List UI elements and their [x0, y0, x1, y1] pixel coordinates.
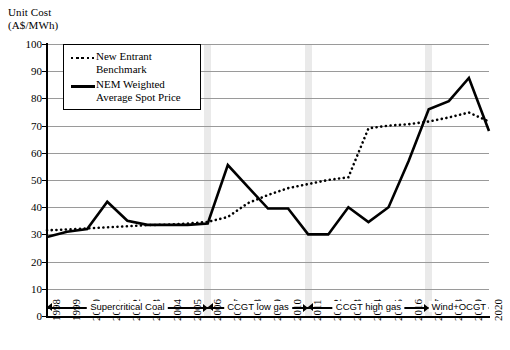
y-axis-tick-label: 80 [8, 93, 42, 104]
y-axis-title-line1: Unit Cost [8, 6, 51, 18]
y-axis-tick-mark [42, 44, 47, 45]
y-axis-tick-label: 10 [8, 283, 42, 294]
y-axis-tick-mark [42, 234, 47, 235]
y-axis-tick-label: 40 [8, 202, 42, 213]
period-annotation: Supercritical Coal [47, 302, 208, 314]
period-annotation: CCGT high gas [308, 302, 429, 314]
period-annotation: Wind+OCGT [429, 302, 489, 314]
y-axis-tick-mark [42, 262, 47, 263]
chart-legend: New Entrant Benchmark NEM Weighted Avera… [63, 44, 201, 110]
legend-item-new-entrant-benchmark: New Entrant Benchmark [70, 50, 194, 75]
y-axis-tick-mark [42, 126, 47, 127]
legend-swatch-dotted-icon [70, 52, 96, 64]
period-annotation: CCGT low gas [208, 302, 308, 314]
legend-item-nem-weighted-average-spot-price: NEM Weighted Average Spot Price [70, 78, 194, 103]
y-axis-title-line2: (A$/MWh) [8, 19, 58, 31]
y-axis-title: Unit Cost(A$/MWh) [8, 6, 58, 32]
y-axis-tick-mark [42, 98, 47, 99]
y-axis-tick-label: 0 [8, 311, 42, 322]
period-label: CCGT high gas [333, 301, 404, 312]
legend-label: New Entrant Benchmark [96, 50, 152, 75]
period-label: Supercritical Coal [87, 301, 167, 312]
y-axis-tick-mark [42, 289, 47, 290]
y-axis-tick-mark [42, 207, 47, 208]
y-axis-tick-label: 60 [8, 147, 42, 158]
y-axis-tick-label: 20 [8, 256, 42, 267]
y-axis-tick-mark [42, 180, 47, 181]
x-axis-tick-label: 2020 [493, 299, 504, 321]
chart-container: Unit Cost(A$/MWh) 0102030405060708090100… [0, 0, 510, 350]
y-axis-tick-label: 50 [8, 175, 42, 186]
y-axis-tick-mark [42, 153, 47, 154]
series-line [47, 113, 489, 231]
legend-label: NEM Weighted Average Spot Price [96, 78, 181, 103]
y-axis-tick-mark [42, 316, 47, 317]
legend-swatch-solid-icon [70, 80, 96, 92]
y-axis-tick-label: 90 [8, 66, 42, 77]
y-axis-tick-label: 100 [8, 39, 42, 50]
period-label: Wind+OCGT [429, 301, 490, 312]
period-label: CCGT low gas [224, 301, 292, 312]
y-axis-tick-mark [42, 71, 47, 72]
y-axis-tick-label: 70 [8, 120, 42, 131]
y-axis-tick-label: 30 [8, 229, 42, 240]
